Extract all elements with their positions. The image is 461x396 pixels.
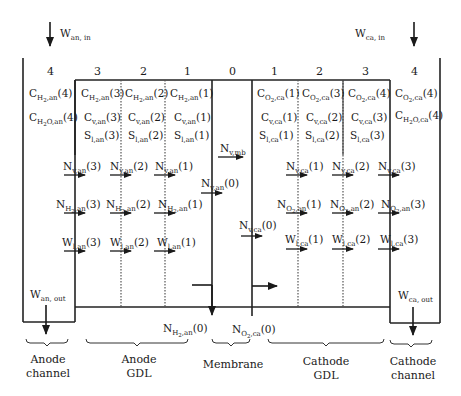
region-label-anode-channel: Anodechannel — [13, 353, 83, 381]
cathode-channel-o2-concentration: CO2,ca(4) — [395, 88, 438, 104]
anode-gdl-h2-3: CH2,an(3) — [81, 88, 124, 104]
anode-channel-h2-concentration: CH2,an(4) — [29, 88, 72, 104]
cathode-inlet-label: Wca, in — [355, 28, 385, 42]
region-label-cathode-channel: Cathodechannel — [378, 355, 448, 383]
anode-gdl-saturation-1: Sl,an(1) — [174, 130, 209, 144]
anode-gdl-h2-2: CH2,an(2) — [125, 88, 168, 104]
anode-gdl-h2-1: CH2,an(1) — [170, 88, 213, 104]
node-index-anode-2: 2 — [140, 66, 147, 77]
node-index-cathode-3: 3 — [362, 66, 369, 77]
node-index-anode-4: 4 — [47, 66, 54, 77]
anode-h2-flux-0: NH2,an(0) — [163, 323, 208, 339]
cathode-gdl-vapor-1: Cv,ca(1) — [261, 112, 297, 126]
region-label-anode-gdl: AnodeGDL — [104, 353, 174, 381]
anode-inlet-label: Wan, in — [60, 28, 91, 42]
node-index-cathode-4: 4 — [411, 66, 418, 77]
anode-vapor-flux-2: Nv,an(2) — [110, 161, 148, 175]
anode-outlet-label: Wan, out — [30, 289, 65, 303]
cathode-o2-flux-3: NO2,an(3) — [381, 199, 425, 215]
anode-channel-h2o-concentration: CH2O,an(4) — [29, 112, 78, 128]
node-index-anode-3: 3 — [94, 66, 101, 77]
cathode-vapor-flux-2: Nv,ca(2) — [332, 161, 370, 175]
cathode-gdl-o2-3: CO2,ca(4) — [348, 88, 391, 104]
anode-liquid-flux-1: Wl,an(1) — [157, 237, 196, 251]
cathode-channel-h2o-concentration: CH2O,ca(4) — [395, 110, 443, 126]
cathode-o2-flux-2: NO2,an(2) — [330, 199, 374, 215]
node-index-membrane-0: 0 — [229, 66, 236, 77]
cathode-liquid-flux-2: Wl,ca(2) — [332, 234, 370, 248]
anode-gdl-vapor-3: Cv,an(3) — [84, 112, 121, 126]
anode-h2-flux-1: NH2,an(1) — [158, 199, 203, 215]
cathode-liquid-flux-1: Wl,ca(1) — [285, 234, 323, 248]
cathode-outlet-label: Wca, out — [398, 290, 433, 304]
anode-vapor-flux-3: Nv,an(3) — [63, 161, 101, 175]
region-label-cathode-gdl: CathodeGDL — [291, 355, 361, 383]
cathode-gdl-saturation-3: Sl,ca(3) — [350, 130, 385, 144]
cathode-vapor-flux-3: Nv,ca(3) — [378, 161, 416, 175]
membrane-vapor-flux: Nv,mb — [220, 143, 246, 157]
anode-gdl-vapor-2: Cv,an(2) — [128, 112, 165, 126]
anode-gdl-vapor-1: Cv,an(1) — [174, 112, 211, 126]
region-label-membrane: Membrane — [198, 358, 268, 372]
cathode-o2-flux-1: NO2,an(1) — [277, 199, 321, 215]
anode-vapor-flux-0: Nv,an(0) — [201, 178, 239, 192]
cathode-vapor-flux-1: Nv,ca(1) — [286, 161, 324, 175]
diagram-structure — [0, 0, 461, 396]
anode-h2-flux-3: NH2,an(3) — [56, 199, 101, 215]
region-braces — [26, 339, 432, 347]
cathode-gdl-vapor-3: Cv,ca(3) — [351, 112, 387, 126]
cathode-liquid-flux-3: Wl,ca(3) — [380, 234, 418, 248]
anode-gdl-saturation-3: Sl,an(3) — [84, 130, 119, 144]
anode-liquid-flux-3: Wl,an(3) — [62, 237, 101, 251]
cathode-gdl-saturation-1: Sl,ca(1) — [259, 130, 294, 144]
node-index-cathode-1: 1 — [271, 66, 278, 77]
cathode-gdl-o2-1: CO2,ca(1) — [257, 88, 300, 104]
node-index-cathode-2: 2 — [316, 66, 323, 77]
cathode-vapor-flux-0: Nv,ca(0) — [239, 220, 277, 234]
anode-h2-flux-2: NH2,an(2) — [106, 199, 151, 215]
anode-gdl-saturation-2: Sl,an(2) — [128, 130, 163, 144]
anode-vapor-flux-1: Nv,an(1) — [155, 161, 193, 175]
cathode-gdl-saturation-2: Sl,ca(2) — [305, 130, 340, 144]
cathode-gdl-vapor-2: Cv,ca(2) — [306, 112, 342, 126]
anode-liquid-flux-2: Wl,an(2) — [110, 237, 149, 251]
node-index-anode-1: 1 — [184, 66, 191, 77]
cathode-o2-flux-0: NO2,ca(0) — [232, 324, 276, 340]
h2-consumption-arrow — [192, 285, 212, 315]
cathode-gdl-o2-2: CO2,ca(3) — [302, 88, 345, 104]
